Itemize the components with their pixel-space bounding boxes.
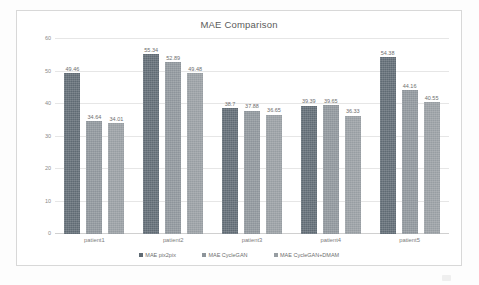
bar-value-label: 40.55 xyxy=(425,95,439,101)
bar-value-label: 44.16 xyxy=(403,83,417,89)
y-axis-tick-label: 20 xyxy=(45,165,51,171)
bar-value-label: 49.48 xyxy=(188,66,202,72)
bar-slot: 39.65 xyxy=(323,39,339,234)
bar[interactable]: 54.38 xyxy=(380,57,396,234)
x-axis-labels: patient1patient2patient3patient4patient5 xyxy=(55,237,449,243)
bar-slot: 34.64 xyxy=(86,39,102,234)
bar[interactable]: 52.89 xyxy=(165,62,181,234)
x-axis-tick-label: patient3 xyxy=(213,237,292,243)
y-axis-tick-label: 50 xyxy=(45,68,51,74)
bar-group: 38.737.8836.65 xyxy=(213,39,292,234)
bar-group: 39.3939.6536.33 xyxy=(291,39,370,234)
legend-item[interactable]: MAE pix2pix xyxy=(139,252,176,258)
bar-value-label: 39.39 xyxy=(302,98,316,104)
bar-value-label: 54.38 xyxy=(381,50,395,56)
y-axis-tick-label: 0 xyxy=(48,230,51,236)
bar-slot: 44.16 xyxy=(402,39,418,234)
bar-value-label: 39.65 xyxy=(324,98,338,104)
bar[interactable]: 34.01 xyxy=(108,123,124,234)
legend-swatch-icon xyxy=(139,253,143,257)
bar[interactable]: 39.65 xyxy=(323,105,339,234)
bar-value-label: 37.88 xyxy=(245,103,259,109)
legend-label: MAE pix2pix xyxy=(145,252,176,258)
bar[interactable]: 34.64 xyxy=(86,121,102,234)
scan-artifact xyxy=(442,275,451,281)
bar[interactable]: 55.34 xyxy=(143,54,159,234)
bar[interactable]: 36.33 xyxy=(345,116,361,234)
legend-item[interactable]: MAE CycleGAN xyxy=(202,252,248,258)
bar-slot: 39.39 xyxy=(301,39,317,234)
bar-value-label: 34.64 xyxy=(88,114,102,120)
bar-slot: 52.89 xyxy=(165,39,181,234)
bar-group: 54.3844.1640.55 xyxy=(370,39,449,234)
bar-value-label: 38.7 xyxy=(225,101,236,107)
bar-value-label: 36.33 xyxy=(346,108,360,114)
bar-value-label: 36.65 xyxy=(267,107,281,113)
bar-slot: 49.48 xyxy=(187,39,203,234)
x-axis-tick-label: patient5 xyxy=(370,237,449,243)
y-axis-tick-label: 40 xyxy=(45,100,51,106)
bar-value-label: 52.89 xyxy=(166,55,180,61)
bar[interactable]: 37.88 xyxy=(244,111,260,234)
chart-title: MAE Comparison xyxy=(17,19,461,30)
bar-slot: 37.88 xyxy=(244,39,260,234)
bar[interactable]: 44.16 xyxy=(402,90,418,234)
bar-slot: 49.46 xyxy=(64,39,80,234)
bar-group: 55.3452.8949.48 xyxy=(134,39,213,234)
bar[interactable]: 39.39 xyxy=(301,106,317,234)
chart-frame: MAE Comparison 0102030405060 49.4634.643… xyxy=(16,10,462,266)
bar[interactable]: 49.48 xyxy=(187,73,203,234)
bar-slot: 54.38 xyxy=(380,39,396,234)
bar-slot: 40.55 xyxy=(424,39,440,234)
plot-area: 0102030405060 49.4634.6434.0155.3452.894… xyxy=(55,39,449,234)
x-axis-tick-label: patient1 xyxy=(55,237,134,243)
bar-slot: 36.33 xyxy=(345,39,361,234)
y-axis-tick-label: 60 xyxy=(45,35,51,41)
y-axis-tick-label: 10 xyxy=(45,198,51,204)
bar[interactable]: 38.7 xyxy=(222,108,238,234)
bar-slot: 38.7 xyxy=(222,39,238,234)
bar-value-label: 55.34 xyxy=(144,47,158,53)
y-axis-tick-label: 30 xyxy=(45,133,51,139)
bar-value-label: 34.01 xyxy=(110,116,124,122)
x-axis-tick-label: patient4 xyxy=(291,237,370,243)
legend-label: MAE CycleGAN xyxy=(208,252,247,258)
legend-item[interactable]: MAE CycleGAN+DMAM xyxy=(274,252,340,258)
legend-swatch-icon xyxy=(202,253,206,257)
bar-slot: 55.34 xyxy=(143,39,159,234)
bar-group: 49.4634.6434.01 xyxy=(55,39,134,234)
chart-legend: MAE pix2pixMAE CycleGANMAE CycleGAN+DMAM xyxy=(17,252,461,258)
bar-groups: 49.4634.6434.0155.3452.8949.4838.737.883… xyxy=(55,39,449,234)
x-axis-tick-label: patient2 xyxy=(134,237,213,243)
bar-slot: 36.65 xyxy=(266,39,282,234)
bar[interactable]: 36.65 xyxy=(266,115,282,234)
bar[interactable]: 49.46 xyxy=(64,73,80,234)
bar-value-label: 49.46 xyxy=(66,66,80,72)
bar[interactable]: 40.55 xyxy=(424,102,440,234)
bar-slot: 34.01 xyxy=(108,39,124,234)
legend-label: MAE CycleGAN+DMAM xyxy=(280,252,339,258)
legend-swatch-icon xyxy=(274,253,278,257)
